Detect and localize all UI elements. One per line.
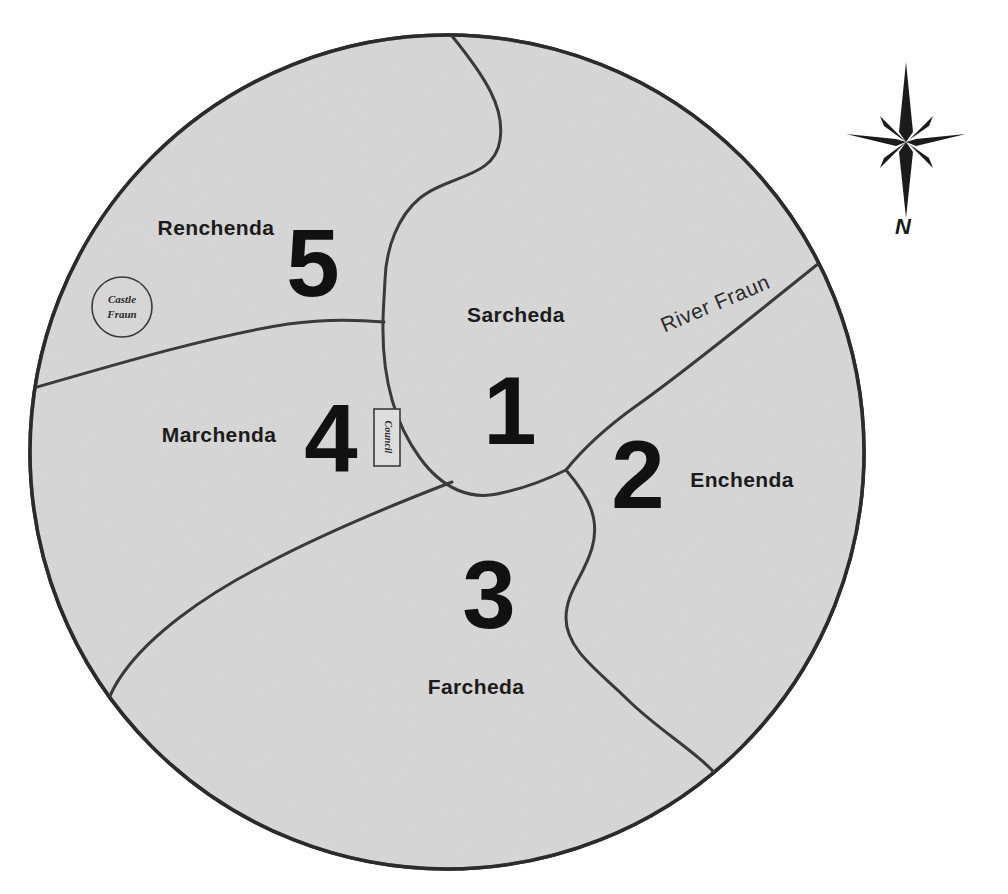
region-number-farcheda: 3: [462, 541, 515, 648]
region-label-marchenda: Marchenda: [162, 423, 276, 446]
region-label-farcheda: Farcheda: [428, 675, 525, 698]
compass-north-label: N: [895, 214, 912, 239]
compass-west-point: [846, 134, 906, 146]
council-marker[interactable]: Council: [374, 409, 400, 466]
region-label-sarcheda: Sarcheda: [467, 303, 565, 326]
region-label-enchenda: Enchenda: [690, 468, 794, 491]
island-texture: [30, 35, 864, 869]
compass-north-point: [899, 62, 913, 142]
region-number-marchenda: 4: [304, 385, 357, 492]
council-label: Council: [383, 421, 394, 454]
castle-fraun-label-line2: Fraun: [106, 308, 136, 320]
map-root: Castle Fraun Council River Fraun Renchen…: [0, 0, 1008, 894]
map-canvas: Castle Fraun Council River Fraun Renchen…: [0, 0, 1008, 894]
compass-south-point: [899, 142, 913, 218]
castle-fraun-marker[interactable]: Castle Fraun: [92, 277, 152, 337]
castle-fraun-label-line1: Castle: [108, 293, 136, 305]
castle-fraun-circle[interactable]: [92, 277, 152, 337]
region-number-enchenda: 2: [611, 421, 664, 528]
compass-rose: N: [846, 62, 966, 239]
compass-east-point: [906, 134, 966, 146]
region-number-renchenda: 5: [286, 209, 339, 316]
island-landmass: [30, 35, 864, 869]
region-label-renchenda: Renchenda: [158, 216, 275, 239]
region-number-sarcheda: 1: [483, 357, 536, 464]
